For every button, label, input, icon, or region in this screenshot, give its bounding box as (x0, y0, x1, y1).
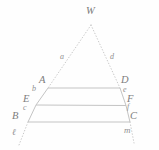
side-e-to-b (28, 105, 36, 122)
line-label-m: m (124, 126, 131, 135)
vertex-label-w: W (86, 6, 95, 17)
geometry-figure: W a d A E B D F C b c e f ℓ m (0, 0, 159, 150)
vertex-label-b: B (12, 111, 18, 122)
segment-label-a: a (60, 53, 64, 61)
ray-w-to-a (48, 25, 91, 88)
parallel-lines-group (28, 88, 130, 122)
segment-label-d: d (110, 53, 114, 61)
vertex-label-c: C (130, 111, 137, 122)
vertex-label-d: D (121, 75, 129, 86)
segment-label-b: b (32, 85, 36, 93)
line-ef (36, 105, 126, 106)
segment-label-e: e (123, 86, 127, 94)
segment-label-f: f (127, 103, 129, 111)
segment-label-c: c (23, 104, 27, 112)
side-a-to-e (36, 88, 48, 105)
figure-canvas (0, 0, 159, 150)
line-label-ell: ℓ (12, 128, 16, 137)
vertex-label-a: A (39, 75, 45, 86)
ray-b-to-ell (19, 122, 28, 145)
dotted-rays-group (19, 25, 134, 145)
ray-w-to-d (91, 25, 120, 88)
